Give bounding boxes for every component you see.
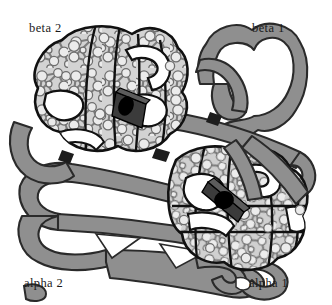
subunit-label-beta-2: beta 2 — [29, 22, 62, 35]
molecular-structure-drawing — [0, 0, 332, 305]
subunit-label-alpha-1: alpha 1 — [249, 277, 288, 290]
hemoglobin-structure-figure: beta 2 beta 1 alpha 2 alpha 1 — [0, 0, 332, 305]
subunit-label-beta-1: beta 1 — [252, 22, 285, 35]
subunit-label-alpha-2: alpha 2 — [24, 277, 63, 290]
beta-2-cavity-left — [44, 91, 83, 121]
